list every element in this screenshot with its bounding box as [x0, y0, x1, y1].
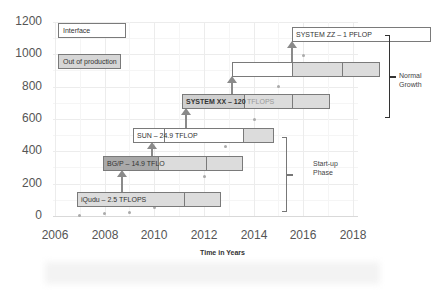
bar-label: BG/P – 14.9 TFLO [107, 158, 165, 170]
y-tick: 0 [0, 208, 42, 222]
annotation-startup-line2: Phase [313, 168, 333, 177]
annotation-startup-line1: Start-up [313, 159, 338, 168]
x-tick: 2006 [35, 228, 75, 242]
legend-interface: Interface [58, 23, 126, 38]
data-point [302, 54, 305, 57]
annotation-normal-line1: Normal [399, 71, 422, 80]
x-tick: 2008 [85, 228, 125, 242]
x-tick: 2010 [134, 228, 174, 242]
arrow-up-icon [231, 78, 233, 94]
y-tick: 1200 [0, 14, 42, 28]
data-point [203, 175, 206, 178]
bar-unnamed-system [232, 62, 380, 77]
y-tick: 200 [0, 176, 42, 190]
data-point [224, 145, 227, 148]
bar-label: SUN – 24.9 TFLOP [137, 130, 198, 142]
data-point [253, 118, 256, 121]
x-axis-label: Time in Years [0, 249, 445, 256]
bar-label: iQudu – 2.5 TFLOPS [81, 194, 146, 206]
bar-iqudu: iQudu – 2.5 TFLOPS [77, 192, 221, 207]
bar-sun: SUN – 24.9 TFLOP [133, 128, 274, 143]
legend-out-of-production: Out of production [58, 54, 121, 69]
data-point [103, 212, 106, 215]
x-tick: 2014 [234, 228, 274, 242]
bar-system-xx: SYSTEM XX – 120 TFLOPS [182, 94, 330, 109]
brace-tick [287, 174, 293, 176]
arrow-up-icon [151, 144, 153, 156]
y-tick: 400 [0, 143, 42, 157]
y-tick: 800 [0, 79, 42, 93]
bar-system-zz: SYSTEM ZZ – 1 PFLOP [292, 27, 431, 42]
data-point [78, 214, 81, 217]
bar-label: SYSTEM XX – 120 [186, 96, 246, 108]
data-point [128, 211, 131, 214]
bar-label-suffix: TFLOPS [247, 96, 274, 108]
bar-bgp: BG/P – 14.9 TFLO [103, 156, 243, 171]
data-point [277, 85, 280, 88]
y-tick: 1000 [0, 46, 42, 60]
y-tick: 600 [0, 111, 42, 125]
x-tick: 2012 [184, 228, 224, 242]
x-tick: 2018 [333, 228, 373, 242]
annotation-normal-line2: Growth [399, 80, 422, 89]
arrow-up-icon [291, 43, 293, 62]
arrow-up-icon [185, 110, 187, 128]
blurred-caption [45, 262, 380, 284]
brace-tick [390, 76, 396, 78]
bar-label: SYSTEM ZZ – 1 PFLOP [296, 29, 372, 41]
arrow-up-icon [121, 172, 123, 192]
x-tick: 2016 [283, 228, 323, 242]
